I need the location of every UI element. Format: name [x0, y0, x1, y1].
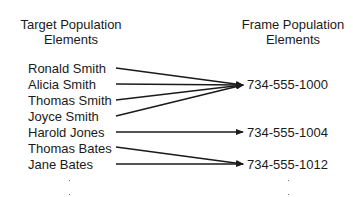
continuation-dot: [288, 180, 289, 181]
continuation-dot: [69, 180, 70, 181]
arrow-line: [116, 85, 243, 116]
arrow-line: [116, 68, 243, 85]
continuation-dot: [69, 194, 70, 195]
arrow-line: [116, 147, 243, 164]
continuation-dot: [288, 194, 289, 195]
arrow-line: [116, 84, 243, 85]
mapping-arrows: [0, 0, 353, 197]
arrow-line: [116, 85, 243, 100]
